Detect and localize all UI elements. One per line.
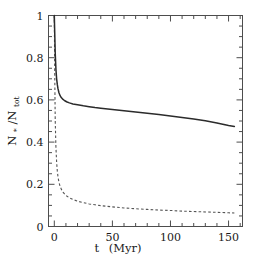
x-tick-label: 100 xyxy=(160,231,181,244)
svg-text:N * /N: N * /N tot xyxy=(5,96,22,145)
x-tick-labels: 050100150 xyxy=(51,231,239,244)
x-axis-title: t (Myr) xyxy=(94,241,141,255)
plot-frame xyxy=(49,16,243,227)
figure-container: 050100150 00.20.40.60.81 t (Myr) N * /N … xyxy=(0,0,257,266)
y-axis-title: N * /N tot xyxy=(5,96,22,145)
y-axis-title-main: N xyxy=(5,136,19,146)
x-axis-title-main: t xyxy=(94,241,99,255)
plot-canvas: 050100150 00.20.40.60.81 t (Myr) N * /N … xyxy=(0,0,257,266)
y-axis-title-sep: /N xyxy=(5,111,19,125)
dashed-curve xyxy=(54,16,234,214)
y-axis-title-sub-star: * xyxy=(12,128,21,132)
y-tick-label: 0.8 xyxy=(26,52,44,65)
y-tick-label: 0.6 xyxy=(26,94,44,107)
y-tick-label: 1 xyxy=(37,10,44,23)
x-tick-label: 150 xyxy=(218,231,239,244)
y-tick-label: 0.2 xyxy=(26,178,44,191)
x-axis-title-units: (Myr) xyxy=(109,241,142,255)
y-tick-label: 0.4 xyxy=(26,136,44,149)
solid-curve xyxy=(54,16,234,127)
y-axis-title-sub-tot: tot xyxy=(12,96,21,107)
x-tick-label: 0 xyxy=(51,231,58,244)
y-tick-labels: 00.20.40.60.81 xyxy=(26,10,44,234)
axis-ticks xyxy=(49,16,243,227)
y-tick-label: 0 xyxy=(37,221,44,234)
svg-text:t (Myr): t (Myr) xyxy=(94,241,141,255)
